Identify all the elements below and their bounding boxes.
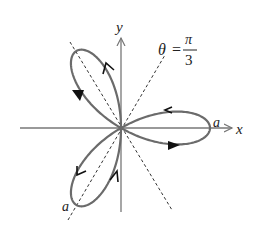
- theta-equation: θ = π 3: [158, 32, 197, 68]
- a-right-label: a: [213, 115, 220, 130]
- svg-text:3: 3: [185, 52, 193, 68]
- x-axis-label: x: [235, 121, 243, 137]
- a-lower-label: a: [62, 199, 69, 214]
- arrow-icon: [72, 90, 84, 101]
- svg-text:=: =: [172, 41, 181, 58]
- svg-text:π: π: [185, 32, 193, 47]
- direction-arrows: [72, 63, 180, 182]
- y-axis-label: y: [114, 19, 123, 35]
- theta-pi-over-3-line: [68, 55, 165, 220]
- rose-diagram: y x a a θ = π 3: [0, 0, 257, 234]
- svg-text:θ: θ: [158, 41, 166, 58]
- arrow-icon: [168, 141, 180, 150]
